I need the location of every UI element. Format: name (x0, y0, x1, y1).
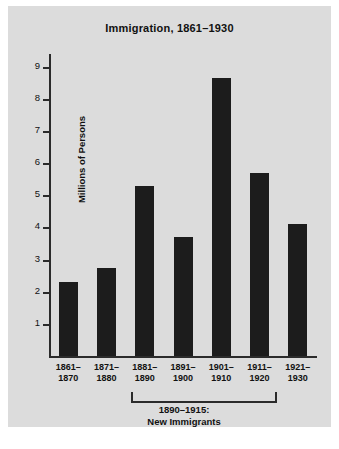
y-tick-label-5: 5 (18, 188, 40, 200)
y-tick-9: 9 (43, 67, 49, 69)
y-tick-8: 8 (43, 99, 49, 101)
y-axis-line (49, 54, 51, 358)
y-tick-label-2: 2 (18, 285, 40, 297)
y-tick-label-3: 3 (18, 253, 40, 265)
x-label-line1: 1901– (209, 362, 234, 372)
bar-1891–1900 (174, 237, 193, 356)
y-tick-label-7: 7 (18, 124, 40, 136)
plot-area: Millions of Persons 123456789 1861–18701… (49, 46, 319, 358)
y-tick-label-8: 8 (18, 92, 40, 104)
x-label-line1: 1881– (132, 362, 157, 372)
bar-1861–1870 (59, 282, 78, 356)
bar-1901–1910 (212, 78, 231, 356)
y-tick-3: 3 (43, 260, 49, 262)
chart-figure: Immigration, 1861–1930 Millions of Perso… (8, 6, 331, 427)
chart-title: Immigration, 1861–1930 (8, 22, 331, 34)
x-label-line2: 1880 (96, 373, 116, 383)
bracket-label-line1: 1890–1915: (159, 404, 210, 415)
x-label-line2: 1920 (250, 373, 270, 383)
x-label-line2: 1870 (58, 373, 78, 383)
y-tick-2: 2 (43, 292, 49, 294)
x-label-line1: 1891– (170, 362, 195, 372)
y-tick-4: 4 (43, 227, 49, 229)
x-label-line1: 1871– (94, 362, 119, 372)
bar-1911–1920 (250, 173, 269, 356)
y-tick-label-9: 9 (18, 60, 40, 72)
x-axis-line (49, 356, 317, 358)
y-tick-6: 6 (43, 163, 49, 165)
new-immigrants-bracket (131, 392, 277, 403)
y-tick-1: 1 (43, 324, 49, 326)
x-label-1921–1930: 1921–1930 (276, 362, 320, 384)
bar-1871–1880 (97, 268, 116, 356)
bracket-label-line2: New Immigrants (49, 416, 319, 428)
new-immigrants-label: 1890–1915: New Immigrants (49, 404, 319, 428)
bar-1921–1930 (288, 224, 307, 356)
bar-1881–1890 (135, 186, 154, 356)
x-label-line1: 1921– (285, 362, 310, 372)
x-label-line2: 1910 (211, 373, 231, 383)
x-label-line2: 1930 (288, 373, 308, 383)
y-tick-label-6: 6 (18, 156, 40, 168)
x-label-line1: 1911– (247, 362, 272, 372)
y-tick-7: 7 (43, 131, 49, 133)
y-tick-label-1: 1 (18, 317, 40, 329)
y-tick-label-4: 4 (18, 220, 40, 232)
x-label-line2: 1900 (173, 373, 193, 383)
x-label-line2: 1890 (135, 373, 155, 383)
y-tick-5: 5 (43, 195, 49, 197)
y-axis-title: Millions of Persons (76, 100, 87, 220)
x-label-line1: 1861– (56, 362, 81, 372)
